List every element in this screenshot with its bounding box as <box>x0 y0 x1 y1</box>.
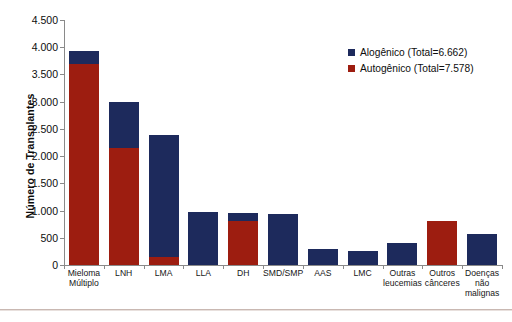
legend-swatch-alogenico-icon <box>348 49 355 56</box>
y-tick-label: 4.500 <box>32 15 58 25</box>
bar-segment-alogenico <box>308 249 338 265</box>
category-label: AAS <box>303 268 343 278</box>
bar-7[interactable] <box>348 251 378 265</box>
y-tick-mark <box>60 74 64 75</box>
bar-1[interactable] <box>109 102 139 265</box>
bar-8[interactable] <box>387 243 417 265</box>
category-label: Outros cânceres <box>422 268 462 288</box>
bar-segment-autogenico <box>427 221 457 265</box>
page-divider-shadow <box>0 310 512 311</box>
y-tick-label: 4.000 <box>32 42 58 52</box>
bar-segment-autogenico <box>228 221 258 265</box>
category-label: LMC <box>343 268 383 278</box>
legend-item-autogenico: Autogênico (Total=7.578) <box>348 60 474 76</box>
bar-segment-alogenico <box>387 243 417 265</box>
category-label: Outras leucemias <box>383 268 423 288</box>
bar-6[interactable] <box>308 249 338 265</box>
bar-10[interactable] <box>467 234 497 265</box>
chart-legend: Alogênico (Total=6.662) Autogênico (Tota… <box>348 44 474 76</box>
y-tick-mark <box>60 47 64 48</box>
y-tick-mark <box>60 238 64 239</box>
y-tick-mark <box>60 156 64 157</box>
bar-segment-alogenico <box>467 234 497 265</box>
bar-segment-alogenico <box>69 51 99 64</box>
bar-segment-autogenico <box>69 64 99 265</box>
bar-2[interactable] <box>149 135 179 265</box>
x-tick-mark <box>502 265 503 269</box>
y-axis-line <box>64 20 65 266</box>
bar-segment-alogenico <box>348 251 378 265</box>
y-tick-label: 1.500 <box>32 178 58 188</box>
y-tick-mark <box>60 211 64 212</box>
legend-label-alogenico: Alogênico (Total=6.662) <box>360 47 467 58</box>
y-tick-label: 2.000 <box>32 151 58 161</box>
category-label: LMA <box>144 268 184 278</box>
category-label: Doenças não malignas <box>462 268 502 299</box>
x-axis-line <box>64 265 502 266</box>
bar-segment-alogenico <box>268 214 298 265</box>
y-tick-label: 0 <box>52 260 58 270</box>
y-tick-mark <box>60 20 64 21</box>
bar-4[interactable] <box>228 213 258 265</box>
legend-label-autogenico: Autogênico (Total=7.578) <box>360 63 474 74</box>
category-label: Mieloma Múltiplo <box>64 268 104 288</box>
bar-segment-alogenico <box>149 135 179 257</box>
y-tick-label: 2.500 <box>32 124 58 134</box>
bar-segment-alogenico <box>188 212 218 265</box>
bar-segment-autogenico <box>109 148 139 265</box>
y-tick-mark <box>60 183 64 184</box>
bar-5[interactable] <box>268 214 298 265</box>
category-label: DH <box>223 268 263 278</box>
bar-0[interactable] <box>69 51 99 265</box>
y-tick-label: 3.500 <box>32 69 58 79</box>
y-tick-mark <box>60 102 64 103</box>
category-label: LLA <box>183 268 223 278</box>
y-tick-label: 1.000 <box>32 206 58 216</box>
y-axis-tick-labels: 05001.0001.5002.0002.5003.0003.5004.0004… <box>0 20 58 265</box>
legend-item-alogenico: Alogênico (Total=6.662) <box>348 44 474 60</box>
category-label: LNH <box>104 268 144 278</box>
y-tick-mark <box>60 129 64 130</box>
y-tick-label: 500 <box>40 233 58 243</box>
y-tick-label: 3.000 <box>32 97 58 107</box>
category-label: SMD/SMP <box>263 268 303 278</box>
bar-segment-alogenico <box>228 213 258 221</box>
legend-swatch-autogenico-icon <box>348 65 355 72</box>
bar-segment-alogenico <box>109 102 139 148</box>
bar-9[interactable] <box>427 221 457 265</box>
bar-3[interactable] <box>188 212 218 265</box>
bar-chart: Número de Transplantes 05001.0001.5002.0… <box>0 0 512 322</box>
bar-segment-autogenico <box>149 257 179 265</box>
